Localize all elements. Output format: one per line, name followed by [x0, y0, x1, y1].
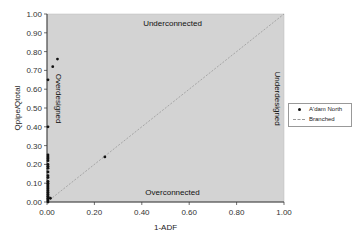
- x-tick-label: 0.00: [39, 208, 55, 217]
- y-tick-label: 0.20: [26, 160, 42, 169]
- y-axis-label: Qpipe/Qtotal: [13, 85, 22, 130]
- x-tick-label: 1.00: [276, 208, 292, 217]
- dot-marker-icon: [298, 108, 301, 111]
- data-point: [47, 163, 50, 166]
- data-point: [47, 180, 50, 183]
- data-point: [47, 78, 50, 81]
- y-tick-label: 0.80: [26, 48, 42, 57]
- legend-label: A'dam North: [309, 106, 342, 112]
- legend-item-adam-north: A'dam North: [289, 104, 351, 114]
- data-point: [47, 174, 50, 177]
- data-point: [47, 154, 50, 157]
- data-point: [49, 197, 52, 200]
- x-tick-label: 0.20: [87, 208, 103, 217]
- y-tick-label: 0.70: [26, 66, 42, 75]
- x-tick-label: 0.40: [134, 208, 150, 217]
- y-tick-label: 0.90: [26, 29, 42, 38]
- data-point: [56, 58, 59, 61]
- data-point: [51, 65, 54, 68]
- data-point: [103, 155, 106, 158]
- data-point: [47, 171, 50, 174]
- x-axis-label: 1-ADF: [154, 223, 177, 232]
- y-tick-label: 0.40: [26, 123, 42, 132]
- legend-label: Branched: [309, 116, 335, 122]
- legend: A'dam North Branched: [288, 103, 352, 127]
- x-tick-label: 0.80: [229, 208, 245, 217]
- legend-item-branched: Branched: [289, 114, 351, 124]
- data-point: [47, 125, 50, 128]
- annotation-top: Underconnected: [143, 19, 202, 28]
- annotation-left: Overdesigned: [54, 74, 63, 124]
- y-tick-label: 0.50: [26, 104, 42, 113]
- y-tick-label: 0.60: [26, 85, 42, 94]
- annotation-right: Underdesigned: [273, 71, 282, 125]
- dashed-line-icon: [293, 119, 305, 120]
- y-tick-label: 1.00: [26, 10, 42, 19]
- y-tick-label: 0.30: [26, 142, 42, 151]
- plot-area: 0.000.100.200.300.400.500.600.700.800.90…: [13, 10, 292, 232]
- y-tick-label: 0.00: [26, 198, 42, 207]
- y-tick-label: 0.10: [26, 179, 42, 188]
- x-tick-label: 0.60: [181, 208, 197, 217]
- annotation-bottom: Overconnected: [145, 188, 199, 197]
